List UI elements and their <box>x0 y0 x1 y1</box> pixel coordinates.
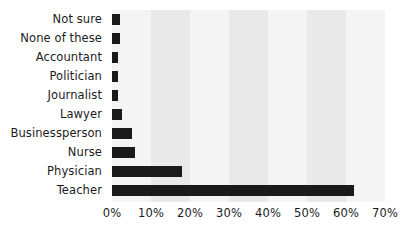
bar <box>112 52 118 63</box>
bar-row <box>112 48 385 67</box>
value-axis: 0%10%20%30%40%50%60%70% <box>112 205 385 229</box>
bar-row <box>112 143 385 162</box>
bar-row <box>112 105 385 124</box>
value-tick-label: 0% <box>103 205 121 221</box>
value-tick-label: 20% <box>177 205 203 221</box>
category-label: Physician <box>47 162 102 181</box>
plot-area <box>112 10 385 202</box>
bar-row <box>112 124 385 143</box>
bar-series-layer <box>112 10 385 202</box>
bar-row <box>112 10 385 29</box>
bar-row <box>112 162 385 181</box>
category-label: Nurse <box>68 143 102 162</box>
category-label: Politician <box>49 67 102 86</box>
bar <box>112 147 135 158</box>
value-tick-label: 40% <box>255 205 281 221</box>
bar-row <box>112 67 385 86</box>
bar-chart: Not sureNone of theseAccountantPoliticia… <box>0 0 410 237</box>
category-label: Not sure <box>53 10 102 29</box>
value-tick-label: 30% <box>216 205 242 221</box>
value-tick-label: 70% <box>372 205 398 221</box>
bar-row <box>112 29 385 48</box>
category-label: Journalist <box>48 86 102 105</box>
value-tick-label: 50% <box>294 205 320 221</box>
bar <box>112 166 182 177</box>
bar <box>112 33 120 44</box>
category-label: Teacher <box>57 181 102 200</box>
value-tick-label: 60% <box>333 205 359 221</box>
bar <box>112 71 118 82</box>
bar <box>112 14 120 25</box>
value-tick-label: 10% <box>138 205 164 221</box>
bar-row <box>112 181 385 200</box>
bar <box>112 90 118 101</box>
category-label: Businessperson <box>10 124 102 143</box>
bar <box>112 109 122 120</box>
bar <box>112 185 354 196</box>
category-label: None of these <box>20 29 102 48</box>
category-label: Lawyer <box>60 105 102 124</box>
bar <box>112 128 132 139</box>
bar-row <box>112 86 385 105</box>
category-axis: Not sureNone of theseAccountantPoliticia… <box>0 10 107 202</box>
category-label: Accountant <box>36 48 102 67</box>
